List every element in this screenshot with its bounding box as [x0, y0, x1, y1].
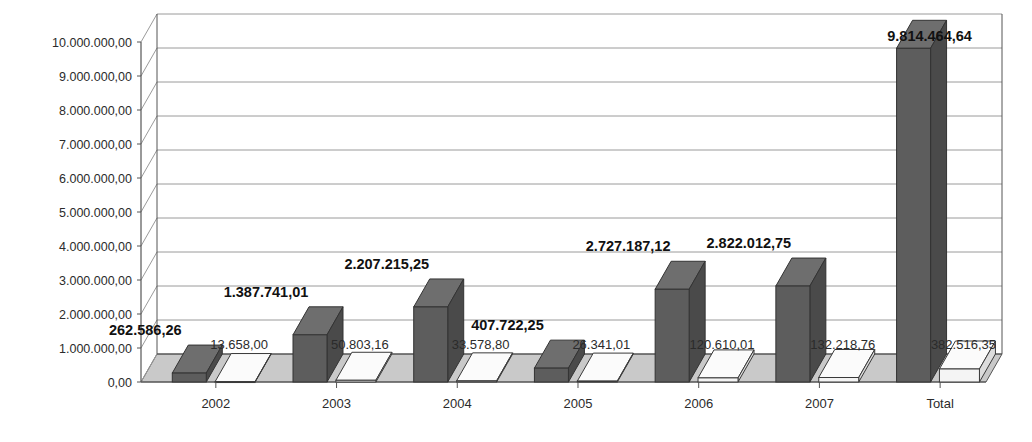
bar-front-face: [215, 382, 255, 383]
y-axis-tick-label: 0,00: [108, 376, 132, 390]
bar-series1: [414, 279, 464, 382]
bar-value-label-secondary: 132.218,76: [810, 337, 875, 352]
x-axis-tick-label: 2006: [684, 396, 713, 411]
bar-front-face: [172, 373, 206, 382]
x-axis-tick-label: 2003: [322, 396, 351, 411]
chart-container: 0,001.000.000,002.000.000,003.000.000,00…: [0, 0, 1032, 442]
x-axis-tick-label: 2002: [201, 396, 230, 411]
bar-value-label-primary: 2.207.215,25: [344, 256, 429, 272]
bar-value-label-secondary: 50.803,16: [331, 337, 389, 352]
y-axis-tick-label: 9.000.000,00: [59, 70, 132, 84]
bar-value-label-primary: 2.727.187,12: [586, 238, 671, 254]
bar-front-face: [698, 378, 738, 382]
bar-front-face: [776, 286, 810, 382]
bar-chart-3d: 0,001.000.000,002.000.000,003.000.000,00…: [0, 0, 1032, 442]
y-axis-tick-label: 3.000.000,00: [59, 274, 132, 288]
x-axis-tick-label: 2007: [805, 396, 834, 411]
bar-front-face: [457, 381, 497, 382]
bar-value-label-primary: 262.586,26: [109, 322, 182, 338]
x-axis-tick-label: Total: [926, 396, 954, 411]
bar-front-face: [336, 380, 376, 382]
y-axis-tick-label: 7.000.000,00: [59, 138, 132, 152]
bar-value-label-secondary: 26.341,01: [572, 337, 630, 352]
bar-series1: [655, 261, 705, 382]
y-axis-tick-label: 10.000.000,00: [52, 36, 132, 50]
bar-front-face: [414, 307, 448, 382]
bar-value-label-primary: 407.722,25: [471, 317, 544, 333]
bar-series1: [897, 20, 947, 382]
bar-value-label-primary: 2.822.012,75: [707, 235, 792, 251]
bar-front-face: [293, 335, 327, 382]
y-axis-tick-label: 2.000.000,00: [59, 308, 132, 322]
y-axis-tick-label: 1.000.000,00: [59, 342, 132, 356]
bar-side-face: [931, 20, 947, 382]
x-axis-tick-label: 2004: [443, 396, 472, 411]
bar-value-label-primary: 1.387.741,01: [224, 284, 309, 300]
bar-value-label-secondary: 382.516,35: [931, 337, 996, 352]
bar-series1: [776, 258, 826, 382]
bar-front-face: [819, 378, 859, 382]
bar-front-face: [939, 369, 979, 382]
bar-front-face: [534, 368, 568, 382]
bar-value-label-primary: 9.814.464,64: [887, 28, 972, 44]
bar-value-label-secondary: 33.578,80: [452, 337, 510, 352]
bar-front-face: [577, 381, 617, 382]
bar-value-label-secondary: 120.610,01: [689, 337, 754, 352]
x-axis-tick-label: 2005: [564, 396, 593, 411]
bar-front-face: [655, 289, 689, 382]
y-axis-tick-label: 5.000.000,00: [59, 206, 132, 220]
y-axis-tick-label: 4.000.000,00: [59, 240, 132, 254]
bar-front-face: [897, 48, 931, 382]
y-axis-tick-label: 8.000.000,00: [59, 104, 132, 118]
bar-value-label-secondary: 13.658,00: [210, 337, 268, 352]
y-axis-tick-label: 6.000.000,00: [59, 172, 132, 186]
